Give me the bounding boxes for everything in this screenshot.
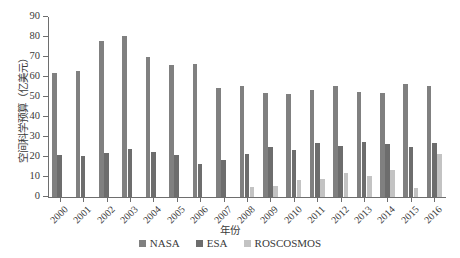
bar-group-2004 xyxy=(146,17,161,197)
x-tick-2013 xyxy=(364,197,365,202)
x-tick-2005 xyxy=(177,197,178,202)
y-tick-label: 80 xyxy=(30,28,41,44)
x-axis-title: 年份 xyxy=(0,222,460,237)
y-axis-line xyxy=(48,17,49,198)
bar-group-2010 xyxy=(286,17,301,197)
x-tick-2015 xyxy=(411,197,412,202)
bar-group-2011 xyxy=(310,17,325,197)
bar-esa-2003 xyxy=(128,149,133,197)
bar-nasa-2000 xyxy=(52,73,57,197)
y-tick-label: 40 xyxy=(30,108,41,124)
bar-group-2008 xyxy=(240,17,255,197)
bar-roscosmos-2016 xyxy=(437,154,442,197)
bar-esa-2015 xyxy=(409,147,414,197)
bar-esa-2006 xyxy=(198,164,203,197)
x-tick-2009 xyxy=(270,197,271,202)
chart-figure: 空间科学预算（亿美元） 0102030405060708090 20002001… xyxy=(0,0,460,258)
legend-label: ESA xyxy=(207,237,228,249)
legend-swatch-icon xyxy=(196,240,203,247)
bar-nasa-2001 xyxy=(76,71,81,197)
bar-esa-2000 xyxy=(57,155,62,197)
y-tick-label: 60 xyxy=(30,68,41,84)
legend-label: ROSCOSMOS xyxy=(255,237,322,249)
y-tick-10: 10 xyxy=(43,176,48,177)
bar-roscosmos-2009 xyxy=(273,186,278,197)
bar-esa-2005 xyxy=(174,155,179,197)
plot-area: 0102030405060708090 xyxy=(48,17,446,197)
bar-nasa-2014 xyxy=(380,93,385,197)
bar-group-2000 xyxy=(52,17,67,197)
x-tick-2012 xyxy=(341,197,342,202)
legend-swatch-icon xyxy=(244,240,251,247)
bar-nasa-2011 xyxy=(310,90,315,197)
bar-roscosmos-2010 xyxy=(297,180,302,197)
legend-item-roscosmos[interactable]: ROSCOSMOS xyxy=(244,237,322,249)
bar-group-2009 xyxy=(263,17,278,197)
bar-group-2001 xyxy=(76,17,91,197)
bar-group-2015 xyxy=(403,17,418,197)
bar-roscosmos-2012 xyxy=(344,173,349,197)
x-tick-2006 xyxy=(200,197,201,202)
bar-nasa-2007 xyxy=(216,88,221,197)
bar-nasa-2005 xyxy=(169,65,174,197)
bar-esa-2004 xyxy=(151,152,156,197)
y-tick-label: 90 xyxy=(30,8,41,24)
bar-esa-2010 xyxy=(292,150,297,197)
chart-legend: NASAESAROSCOSMOS xyxy=(0,237,460,249)
bar-esa-2013 xyxy=(362,142,367,197)
y-tick-60: 60 xyxy=(43,76,48,77)
x-tick-2003 xyxy=(130,197,131,202)
bar-group-2013 xyxy=(357,17,372,197)
bar-nasa-2008 xyxy=(240,86,245,197)
x-tick-2011 xyxy=(317,197,318,202)
legend-item-nasa[interactable]: NASA xyxy=(139,237,180,249)
bar-nasa-2003 xyxy=(122,36,127,197)
bar-nasa-2006 xyxy=(193,64,198,197)
legend-swatch-icon xyxy=(139,240,146,247)
x-tick-2007 xyxy=(224,197,225,202)
bar-esa-2016 xyxy=(432,143,437,197)
legend-item-esa[interactable]: ESA xyxy=(196,237,228,249)
bar-nasa-2013 xyxy=(357,92,362,197)
bar-nasa-2010 xyxy=(286,94,291,197)
y-tick-30: 30 xyxy=(43,136,48,137)
y-tick-50: 50 xyxy=(43,96,48,97)
y-tick-80: 80 xyxy=(43,36,48,37)
x-tick-2008 xyxy=(247,197,248,202)
bar-group-2014 xyxy=(380,17,395,197)
x-tick-2004 xyxy=(153,197,154,202)
x-tick-2014 xyxy=(387,197,388,202)
bar-group-2006 xyxy=(193,17,208,197)
bar-nasa-2009 xyxy=(263,93,268,197)
bar-esa-2007 xyxy=(221,160,226,197)
bar-esa-2012 xyxy=(338,146,343,197)
y-tick-90: 90 xyxy=(43,16,48,17)
bar-nasa-2012 xyxy=(333,86,338,197)
bar-esa-2014 xyxy=(385,144,390,197)
bar-nasa-2015 xyxy=(403,84,408,197)
bar-group-2012 xyxy=(333,17,348,197)
bar-roscosmos-2015 xyxy=(414,188,419,197)
bar-nasa-2004 xyxy=(146,57,151,197)
x-tick-2002 xyxy=(107,197,108,202)
y-tick-label: 70 xyxy=(30,48,41,64)
y-tick-70: 70 xyxy=(43,56,48,57)
y-tick-0: 0 xyxy=(43,196,48,197)
y-tick-label: 50 xyxy=(30,88,41,104)
bar-group-2003 xyxy=(122,17,137,197)
y-tick-40: 40 xyxy=(43,116,48,117)
bar-roscosmos-2008 xyxy=(250,187,255,197)
x-tick-2001 xyxy=(83,197,84,202)
bar-roscosmos-2011 xyxy=(320,179,325,197)
bar-roscosmos-2014 xyxy=(390,170,395,197)
bar-roscosmos-2013 xyxy=(367,176,372,197)
y-axis-title: 空间科学预算（亿美元） xyxy=(15,18,30,198)
bar-group-2005 xyxy=(169,17,184,197)
y-tick-label: 0 xyxy=(35,188,40,204)
bar-esa-2002 xyxy=(104,153,109,197)
x-tick-2010 xyxy=(294,197,295,202)
bar-nasa-2016 xyxy=(427,86,432,197)
y-tick-20: 20 xyxy=(43,156,48,157)
bar-group-2002 xyxy=(99,17,114,197)
y-tick-label: 10 xyxy=(30,168,41,184)
